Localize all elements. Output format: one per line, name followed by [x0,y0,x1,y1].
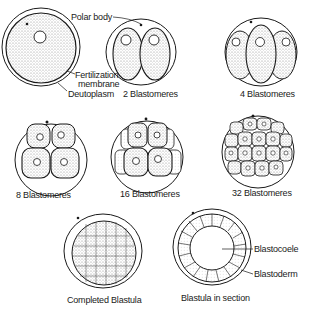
completed-blastula-figure [64,214,142,288]
two-blastomeres-label: 2 Blastomeres [123,89,178,99]
blastula-section-label: Blastula in section [181,293,250,303]
cleavage-diagram [0,0,310,314]
blastula-section-figure [173,209,253,285]
polar-body-dot [26,23,29,26]
completed-blastula-label: Completed Blastula [67,295,141,305]
blastocoele-label: Blastocoele [254,244,298,254]
blastoderm-label: Blastoderm [254,269,298,279]
four-blastomeres-label: 4 Blastomeres [240,89,295,99]
eight-blastomeres-label: 8 Blastomeres [16,190,71,200]
eight-cell-figure [15,121,87,197]
sixteen-cell-figure [111,118,183,193]
sixteen-blastomeres-label: 16 Blastomeres [120,189,180,199]
four-cell-figure [225,18,297,86]
zygote-figure [2,8,80,91]
polar-body-label: Polar body [71,12,112,22]
fertilization-membrane-label-line2: membrane [78,79,119,89]
thirtytwo-blastomeres-label: 32 Blastomeres [232,188,292,198]
deutoplasm-label: Deutoplasm [68,89,114,99]
thirtytwo-cell-figure [222,115,294,189]
